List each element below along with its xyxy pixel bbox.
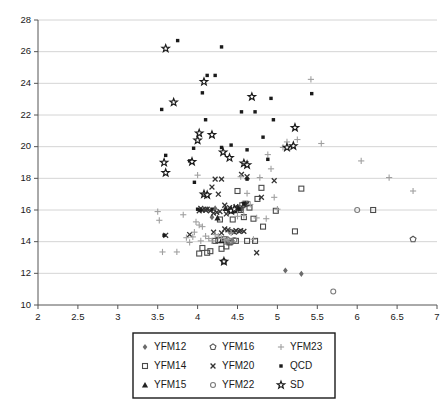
y-tick-label: 10 (20, 299, 31, 310)
data-point (204, 118, 207, 121)
data-point (164, 154, 167, 157)
data-point (242, 202, 245, 205)
data-point (176, 39, 179, 42)
legend-label: QCD (290, 360, 312, 371)
x-tick-label: 3 (115, 311, 120, 322)
x-tick-label: 5.5 (311, 311, 324, 322)
legend-label: YFM22 (222, 379, 255, 390)
data-point (192, 147, 195, 150)
data-point (245, 148, 248, 151)
y-tick-label: 22 (20, 109, 31, 120)
data-point (201, 91, 204, 94)
y-tick-label: 20 (20, 140, 31, 151)
legend-label: YFM16 (222, 341, 255, 352)
x-tick-label: 2.5 (71, 311, 84, 322)
legend-label: YFM12 (154, 341, 187, 352)
x-tick-label: 7 (434, 311, 439, 322)
legend-marker-square-filled-icon (279, 364, 282, 367)
data-point (240, 110, 243, 113)
x-tick-label: 6 (355, 311, 360, 322)
chart-canvas: 10121416182022242628 22.533.544.555.566.… (0, 0, 446, 415)
y-tick-label: 28 (20, 14, 31, 25)
data-point (160, 108, 163, 111)
data-point (213, 74, 216, 77)
data-point (205, 74, 208, 77)
data-point (199, 208, 202, 211)
legend-label: YFM15 (154, 379, 187, 390)
data-point (245, 177, 248, 180)
data-point (210, 208, 213, 211)
x-tick-label: 6.5 (390, 311, 403, 322)
data-point (266, 158, 269, 161)
y-tick-label: 24 (20, 77, 31, 88)
y-tick-label: 18 (20, 172, 31, 183)
y-tick-label: 16 (20, 204, 31, 215)
data-point (253, 110, 256, 113)
x-tick-label: 2 (35, 311, 40, 322)
data-point (193, 181, 196, 184)
legend-label: YFM23 (290, 341, 323, 352)
x-tick-label: 5 (275, 311, 280, 322)
data-point (310, 92, 313, 95)
legend-label: YFM14 (154, 360, 187, 371)
legend-label: YFM20 (222, 360, 255, 371)
data-point (261, 135, 264, 138)
data-point (196, 208, 199, 211)
y-tick-label: 26 (20, 45, 31, 56)
x-tick-label: 4.5 (231, 311, 244, 322)
data-point (272, 118, 275, 121)
legend-label: SD (290, 379, 304, 390)
x-tick-label: 3.5 (151, 311, 164, 322)
chart-legend: YFM12YFM16YFM23YFM14YFM20QCDYFM15YFM22SD (133, 333, 335, 398)
data-point (229, 143, 232, 146)
data-point (220, 45, 223, 48)
data-point (269, 97, 272, 100)
y-tick-label: 12 (20, 267, 31, 278)
y-tick-label: 14 (20, 235, 31, 246)
data-point (162, 234, 165, 237)
x-tick-label: 4 (195, 311, 200, 322)
scatter-chart: 10121416182022242628 22.533.544.555.566.… (0, 0, 446, 415)
